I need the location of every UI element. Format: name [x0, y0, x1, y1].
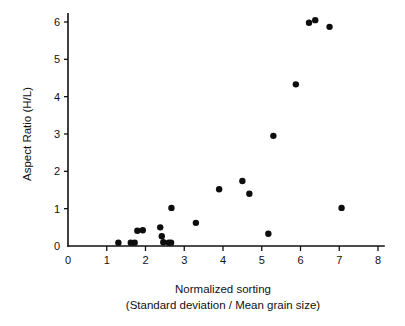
x-tick-label-0: 0 [65, 254, 71, 266]
data-point [306, 20, 312, 26]
x-axis-title-line1: Normalized sorting [175, 283, 271, 295]
data-point [168, 239, 174, 245]
x-axis-title-line2: (Standard deviation / Mean grain size) [126, 299, 320, 311]
data-point [134, 227, 140, 233]
data-point [193, 220, 199, 226]
data-point [160, 239, 166, 245]
data-point [293, 81, 299, 87]
scatter-plot-figure: 0123456 012345678 Normalized sorting (St… [0, 0, 405, 326]
data-point [326, 24, 332, 30]
y-tick-label-4: 4 [54, 91, 60, 103]
y-tick-label-5: 5 [54, 53, 60, 65]
x-tick-label-8: 8 [375, 254, 381, 266]
data-point [159, 233, 165, 239]
data-point [168, 205, 174, 211]
x-tick-label-3: 3 [181, 254, 187, 266]
x-tick-label-4: 4 [220, 254, 226, 266]
x-tick-label-5: 5 [259, 254, 265, 266]
y-axis: 0123456 [54, 14, 68, 252]
data-point [265, 230, 271, 236]
x-tick-label-2: 2 [142, 254, 148, 266]
data-point [216, 186, 222, 192]
data-point [239, 178, 245, 184]
x-tick-label-1: 1 [104, 254, 110, 266]
x-axis: 012345678 [65, 246, 384, 266]
plot-canvas: 0123456 012345678 Normalized sorting (St… [0, 0, 405, 326]
data-point [312, 17, 318, 23]
data-point [246, 191, 252, 197]
y-tick-label-0: 0 [54, 240, 60, 252]
y-tick-label-6: 6 [54, 16, 60, 28]
y-tick-label-1: 1 [54, 203, 60, 215]
data-point [157, 224, 163, 230]
x-tick-label-6: 6 [297, 254, 303, 266]
y-tick-label-2: 2 [54, 165, 60, 177]
x-tick-label-7: 7 [336, 254, 342, 266]
data-point [338, 205, 344, 211]
data-points-layer [115, 17, 345, 246]
y-tick-label-3: 3 [54, 128, 60, 140]
data-point [115, 239, 121, 245]
y-axis-title: Aspect Ratio (H/L) [21, 87, 33, 181]
data-point [131, 239, 137, 245]
data-point [140, 227, 146, 233]
data-point [270, 133, 276, 139]
